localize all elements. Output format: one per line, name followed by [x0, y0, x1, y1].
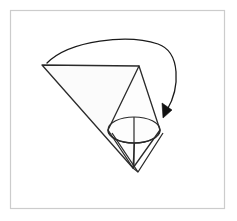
fold-diagram [0, 0, 237, 221]
figure-root [0, 0, 237, 221]
